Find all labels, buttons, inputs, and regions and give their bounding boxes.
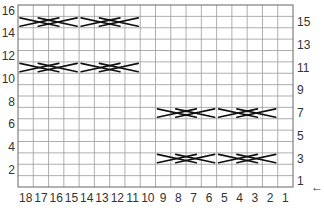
row-labels-right: 15131197531 [297, 15, 311, 188]
column-label: 14 [80, 191, 94, 205]
svg-text:←: ← [311, 180, 323, 194]
row-label-left: 4 [8, 140, 15, 154]
row-label-right: 3 [297, 152, 304, 166]
column-label: 15 [65, 191, 79, 205]
row-label-right: 1 [297, 174, 304, 188]
row-label-left: 8 [8, 95, 15, 109]
row-label-right: 9 [297, 83, 304, 97]
column-label: 11 [126, 191, 139, 205]
knitting-chart: 181716151413121110987654321 161412108642… [0, 0, 324, 210]
column-label: 5 [221, 191, 228, 205]
row-label-left: 6 [8, 117, 15, 131]
start-arrow-icon: ← [311, 180, 323, 194]
row-label-right: 5 [297, 129, 304, 143]
row-label-left: 12 [2, 49, 16, 63]
column-labels: 181716151413121110987654321 [19, 191, 289, 205]
row-label-right: 7 [297, 106, 304, 120]
column-label: 9 [160, 191, 167, 205]
column-label: 8 [175, 191, 182, 205]
row-label-left: 10 [2, 72, 16, 86]
row-labels-left: 161412108642 [2, 4, 16, 177]
row-label-left: 16 [2, 4, 16, 18]
column-label: 2 [267, 191, 274, 205]
column-label: 10 [141, 191, 155, 205]
column-label: 12 [111, 191, 125, 205]
column-label: 4 [236, 191, 243, 205]
row-label-right: 15 [297, 15, 311, 29]
column-label: 7 [190, 191, 197, 205]
column-label: 18 [19, 191, 33, 205]
row-label-left: 14 [2, 26, 16, 40]
row-label-left: 2 [8, 163, 15, 177]
column-label: 6 [206, 191, 213, 205]
column-label: 1 [282, 191, 289, 205]
column-label: 3 [251, 191, 258, 205]
row-label-right: 13 [297, 38, 311, 52]
column-label: 16 [50, 191, 64, 205]
column-label: 13 [95, 191, 109, 205]
cable-symbols [20, 18, 276, 163]
column-label: 17 [34, 191, 48, 205]
row-label-right: 11 [297, 61, 310, 75]
